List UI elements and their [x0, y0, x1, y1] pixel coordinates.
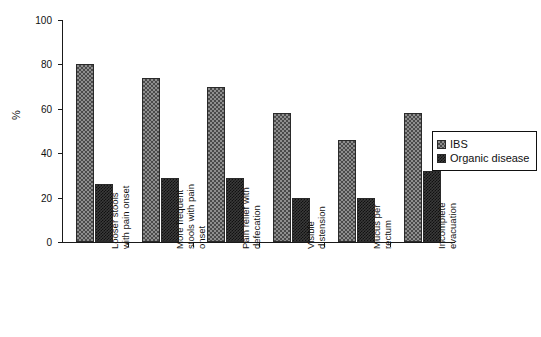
y-axis-tick-label: 0 — [46, 237, 52, 248]
y-axis-tick: 100 — [58, 20, 62, 21]
bar — [338, 140, 356, 242]
chart-legend: IBS Organic disease — [432, 131, 537, 171]
legend-swatch-icon-ibs — [437, 140, 446, 149]
y-axis-tick: 20 — [58, 198, 62, 199]
legend-label-ibs: IBS — [450, 138, 468, 150]
y-axis-tick: 80 — [58, 64, 62, 65]
y-axis-tick-label: 20 — [41, 192, 52, 203]
x-axis-category-label: Pain relief with defecation — [240, 187, 262, 249]
legend-swatch-icon-organic-disease — [437, 154, 446, 163]
x-axis-category-label: Looser stools with pain onset — [109, 186, 131, 249]
x-axis-category-label: Mucus per rectum — [371, 205, 393, 249]
bar — [273, 113, 291, 242]
chart-container: % 020406080100 Looser stools with pain o… — [0, 0, 541, 337]
y-axis-title: % — [10, 110, 22, 120]
y-axis-tick: 60 — [58, 109, 62, 110]
bar — [404, 113, 422, 242]
legend-item-ibs: IBS — [437, 138, 530, 150]
x-axis-category-label: Visible distension — [305, 206, 327, 249]
y-axis-tick-label: 40 — [41, 148, 52, 159]
legend-item-organic-disease: Organic disease — [437, 152, 530, 164]
y-axis-tick-label: 100 — [35, 15, 52, 26]
x-axis-category-label: More frequent stools with pain onset — [174, 184, 207, 249]
bar — [207, 87, 225, 242]
y-axis-tick: 0 — [58, 242, 62, 243]
bar — [142, 78, 160, 242]
x-axis-category-label: Incomplete evacuation — [436, 203, 458, 249]
y-axis-tick-label: 60 — [41, 103, 52, 114]
y-axis-tick-label: 80 — [41, 59, 52, 70]
bar — [76, 64, 94, 242]
y-axis-line — [62, 20, 63, 243]
legend-label-organic-disease: Organic disease — [450, 152, 530, 164]
y-axis-tick: 40 — [58, 153, 62, 154]
